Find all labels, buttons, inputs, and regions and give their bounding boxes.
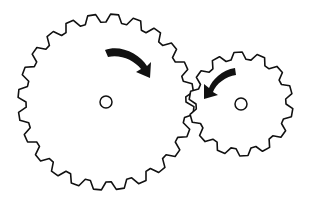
small-gear-hub	[235, 98, 247, 110]
large-gear-hub	[100, 96, 112, 108]
gear-diagram	[0, 0, 310, 202]
gears-canvas	[0, 0, 310, 202]
